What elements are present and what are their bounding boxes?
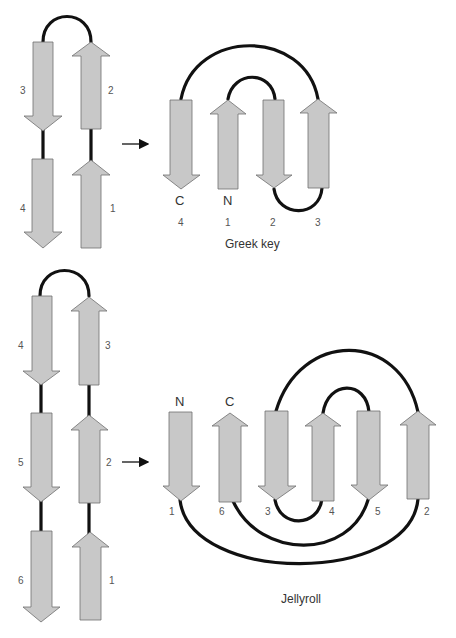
loop xyxy=(43,17,91,43)
strand-label: 1 xyxy=(109,575,115,586)
loop xyxy=(274,188,322,211)
strand-1-up xyxy=(72,160,110,248)
loop xyxy=(275,499,322,521)
strand-label: 4 xyxy=(18,340,24,351)
loop xyxy=(40,271,89,297)
strand-3-up xyxy=(300,99,337,188)
strand-label: 2 xyxy=(108,85,114,96)
strand-label: 2 xyxy=(270,217,276,228)
greek-key-unfolded: 3 2 4 1 xyxy=(20,17,116,249)
loop xyxy=(181,46,318,99)
jellyroll-sheet: N C 1 6 3 4 5 2 Jellyroll xyxy=(163,350,436,606)
strand-5-down xyxy=(23,413,60,502)
strand-2-up xyxy=(72,42,110,129)
strand-label: 3 xyxy=(105,340,111,351)
c-terminus-label: C xyxy=(225,394,234,409)
topology-diagram: 3 2 4 1 C N 4 1 2 3 Greek key xyxy=(0,0,456,638)
strand-1-up xyxy=(72,532,109,620)
strand-3-up xyxy=(71,297,107,385)
strand-3-down xyxy=(258,411,296,500)
greek-key-title: Greek key xyxy=(225,237,280,251)
strand-5-down xyxy=(351,411,388,500)
strand-label: 1 xyxy=(169,506,175,517)
jellyroll-title: Jellyroll xyxy=(281,592,321,606)
strand-label: 3 xyxy=(315,217,321,228)
strand-label: 3 xyxy=(265,506,271,517)
strand-2-up xyxy=(400,411,436,499)
jellyroll-unfolded: 4 3 5 2 6 1 xyxy=(18,271,115,623)
strand-3-down xyxy=(24,42,62,131)
strand-1-down xyxy=(163,412,200,501)
strand-label: 4 xyxy=(20,203,26,214)
greek-key-sheet: C N 4 1 2 3 Greek key xyxy=(163,46,337,251)
loop xyxy=(228,77,275,99)
strand-label: 1 xyxy=(225,217,231,228)
loop xyxy=(180,499,418,564)
strand-2-up xyxy=(71,415,108,503)
strand-label: 5 xyxy=(18,457,24,468)
strand-4-down xyxy=(23,296,60,385)
strand-4-down xyxy=(163,100,200,189)
strand-label: 5 xyxy=(375,506,381,517)
loop xyxy=(233,500,368,545)
strand-4-down xyxy=(24,159,62,248)
strand-4-up xyxy=(305,413,341,501)
strand-label: 3 xyxy=(20,85,26,96)
strand-6-down xyxy=(23,531,60,622)
strand-label: 4 xyxy=(178,217,184,228)
strand-6-up xyxy=(212,413,248,502)
strand-label: 4 xyxy=(329,506,335,517)
strand-label: 6 xyxy=(18,575,24,586)
c-terminus-label: C xyxy=(175,193,184,208)
n-terminus-label: N xyxy=(175,394,184,409)
strand-label: 2 xyxy=(106,457,112,468)
n-terminus-label: N xyxy=(223,193,232,208)
loop xyxy=(276,350,418,412)
strand-label: 6 xyxy=(219,506,225,517)
strand-1-up xyxy=(210,100,246,189)
loop xyxy=(323,388,369,413)
strand-2-down xyxy=(256,100,292,188)
strand-label: 2 xyxy=(424,506,430,517)
strand-label: 1 xyxy=(110,203,116,214)
